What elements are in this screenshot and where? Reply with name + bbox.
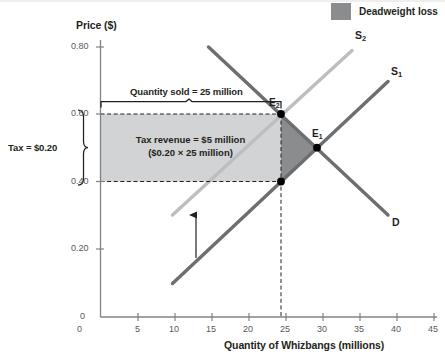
y-tick-label-080: 0.80	[71, 41, 89, 51]
x-tick-label-25: 25	[280, 324, 290, 334]
tax-revenue-line2: ($0.20 × 25 million)	[100, 146, 281, 159]
x-axis-title: Quantity of Whizbangs (millions)	[224, 339, 384, 351]
point-label-e1: E1	[312, 128, 323, 139]
y-tick-label-060: 0.60	[71, 108, 89, 118]
point-e2	[277, 110, 285, 118]
annotation-tax-amount: Tax = $0.20	[8, 142, 57, 153]
curve-label-s2: S2	[355, 29, 366, 41]
x-tick-label-35: 35	[354, 324, 364, 334]
x-tick-label-45: 45	[428, 324, 438, 334]
y-axis-title: Price ($)	[76, 19, 117, 31]
point-label-e2-sub: 2	[276, 102, 280, 109]
tax-revenue-box-text: Tax revenue = $5 million ($0.20 × 25 mil…	[100, 133, 281, 159]
curve-label-s2-text: S	[355, 29, 362, 41]
point-label-e1-sub: 1	[319, 133, 323, 140]
x-tick-label-40: 40	[391, 324, 401, 334]
legend-swatch-deadweight-loss	[331, 3, 351, 20]
x-tick-label-5: 5	[135, 324, 140, 334]
x-tick-label-20: 20	[243, 324, 253, 334]
annotation-quantity-sold: Quantity sold = 25 million	[130, 86, 243, 97]
point-label-e2-text: E	[269, 97, 276, 108]
point-e1	[313, 144, 321, 152]
tax-revenue-line1: Tax revenue = $5 million	[100, 133, 281, 146]
curve-label-s1-text: S	[391, 65, 398, 77]
curve-label-d: D	[392, 216, 400, 228]
economics-tax-incidence-chart: Deadweight loss Price ($) Quantity of Wh…	[0, 0, 445, 357]
point-after-tax-producer-price	[277, 178, 285, 186]
legend-label-deadweight-loss: Deadweight loss	[359, 6, 438, 17]
y-tick-label-020: 0.20	[71, 243, 89, 253]
y-tick-label-040: 0.40	[71, 176, 89, 186]
x-tick-label-30: 30	[317, 324, 327, 334]
curve-label-s2-sub: 2	[362, 34, 366, 43]
x-tick-label-15: 15	[206, 324, 216, 334]
curve-label-s1-sub: 1	[398, 70, 402, 79]
y-tick-label-0: 0	[80, 311, 85, 321]
curve-label-s1: S1	[391, 65, 402, 77]
curve-label-d-text: D	[392, 216, 400, 228]
x-tick-label-0: 0	[77, 324, 82, 334]
x-tick-label-10: 10	[169, 324, 179, 334]
point-label-e1-text: E	[312, 128, 319, 139]
quantity-sold-bracket-shape	[101, 99, 281, 109]
point-label-e2: E2	[269, 97, 280, 108]
tax-bracket-shape	[78, 110, 88, 185]
chart-canvas	[0, 0, 445, 357]
deadweight-loss-region	[281, 114, 317, 182]
